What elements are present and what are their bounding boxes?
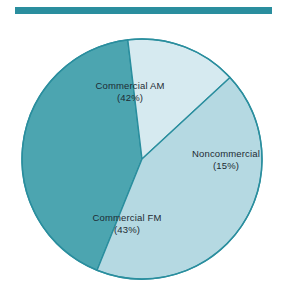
pie-chart-figure: '' Commercial AM (42%) Noncommercial (15… — [0, 0, 285, 307]
pie-slice-group — [22, 39, 262, 279]
pie-chart-svg — [0, 0, 285, 307]
